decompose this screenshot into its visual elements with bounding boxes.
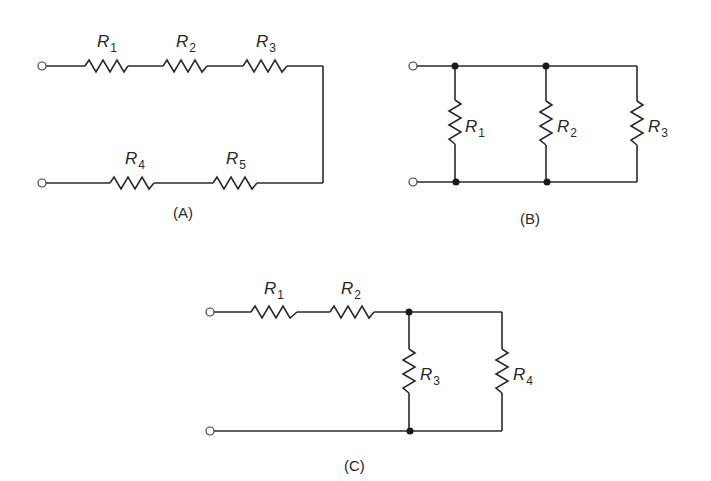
node-b-top-2 <box>543 63 550 70</box>
terminal-b-bottom <box>409 178 417 186</box>
terminal-a-bottom <box>38 179 46 187</box>
resistor-c-r4 <box>496 349 508 393</box>
label-a-r2: R2 <box>176 32 196 55</box>
circuit-b: R1 R2 R3 (B) <box>409 62 668 227</box>
caption-a: (A) <box>173 204 193 221</box>
label-c-r3: R3 <box>420 365 440 388</box>
resistor-b-r2 <box>540 101 552 145</box>
node-b-bottom-2 <box>544 179 551 186</box>
resistor-a-r5 <box>213 177 257 189</box>
terminal-c-bottom <box>206 427 214 435</box>
resistor-a-r3 <box>243 60 287 72</box>
label-b-r1: R1 <box>465 117 485 140</box>
terminal-c-top <box>206 308 214 316</box>
label-b-r2: R2 <box>557 117 577 140</box>
circuit-diagram: R1 R2 R3 R4 R5 (A) R1 R2 R3 (B) <box>0 0 711 481</box>
node-b-top-1 <box>452 63 459 70</box>
label-a-r1: R1 <box>97 32 117 55</box>
label-a-r5: R5 <box>226 149 246 172</box>
node-c-bottom <box>407 428 414 435</box>
label-c-r2: R2 <box>341 279 361 302</box>
label-c-r1: R1 <box>264 279 284 302</box>
label-c-r4: R4 <box>513 365 533 388</box>
label-a-r4: R4 <box>125 149 145 172</box>
caption-c: (C) <box>344 457 365 474</box>
resistor-a-r4 <box>110 177 154 189</box>
label-a-r3: R3 <box>256 32 276 55</box>
label-b-r3: R3 <box>648 117 668 140</box>
node-c-top <box>406 309 413 316</box>
resistor-a-r2 <box>163 60 207 72</box>
resistor-c-r3 <box>403 349 415 393</box>
circuit-c: R1 R2 R3 R4 (C) <box>206 279 533 474</box>
resistor-b-r1 <box>449 100 461 144</box>
terminal-b-top <box>409 62 417 70</box>
terminal-a-top <box>38 62 46 70</box>
circuit-a: R1 R2 R3 R4 R5 (A) <box>38 32 323 221</box>
resistor-c-r2 <box>330 306 374 318</box>
resistor-a-r1 <box>85 60 128 72</box>
resistor-c-r1 <box>251 306 297 318</box>
caption-b: (B) <box>520 210 540 227</box>
resistor-b-r3 <box>631 101 643 145</box>
node-b-bottom-1 <box>453 179 460 186</box>
